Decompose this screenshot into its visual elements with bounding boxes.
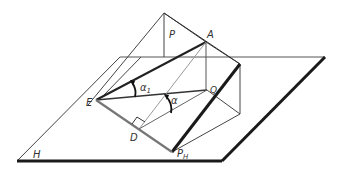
line-a-ridge (206, 42, 240, 64)
label-d: D (130, 132, 138, 143)
label-alpha1: α1 (140, 82, 151, 95)
label-ph-sub: H (183, 153, 189, 161)
label-a: A (206, 29, 214, 40)
construction-lines (96, 13, 240, 152)
geometry-diagram: P A Q E D H PH α1 α (0, 0, 339, 176)
line-e-ph-thick (96, 100, 172, 152)
plane-h-left-edge (17, 57, 120, 161)
plane-h-right-edge (222, 57, 325, 161)
label-ph: PH (177, 148, 189, 161)
label-e: E (86, 97, 93, 108)
label-p: P (169, 29, 176, 40)
label-alpha: α (171, 95, 178, 106)
line-d-a-light (139, 42, 206, 129)
label-alpha1-sub: 1 (147, 87, 151, 95)
label-q: Q (210, 85, 217, 95)
plane-p (88, 13, 240, 152)
label-h: H (33, 149, 41, 160)
